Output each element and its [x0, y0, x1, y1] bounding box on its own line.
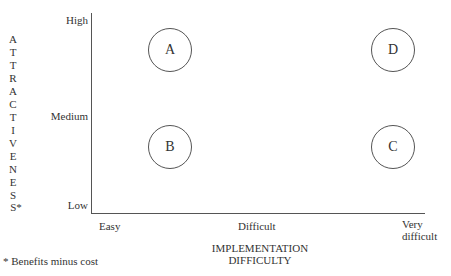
- y-title-letter: N: [6, 164, 20, 175]
- y-title-letter: A: [6, 86, 20, 97]
- y-tick-medium: Medium: [51, 110, 88, 122]
- y-tick-low: Low: [68, 199, 88, 211]
- y-title-letter: E: [6, 177, 20, 188]
- x-tick-difficult: Difficult: [238, 220, 276, 232]
- y-title-letter: T: [6, 60, 20, 71]
- y-title-letter: S*: [9, 202, 23, 213]
- quadrant-a-label: A: [165, 42, 175, 58]
- y-title-letter: R: [6, 73, 20, 84]
- quadrant-b-circle: B: [148, 125, 192, 169]
- x-axis-title-line2: DIFFICULTY: [190, 254, 330, 266]
- x-tick-easy: Easy: [99, 220, 120, 232]
- x-axis-line: [91, 213, 425, 214]
- y-title-letter: T: [6, 47, 20, 58]
- y-title-letter: I: [6, 125, 20, 136]
- x-axis-title-line1: IMPLEMENTATION: [190, 242, 330, 254]
- y-title-letter: E: [6, 151, 20, 162]
- y-axis-line: [91, 13, 92, 214]
- quadrant-c-circle: C: [371, 125, 415, 169]
- x-tick-very-difficult: Very difficult: [402, 218, 437, 242]
- quadrant-c-label: C: [388, 139, 397, 155]
- quadrant-b-label: B: [165, 139, 174, 155]
- x-tick-very-line1: Very: [402, 218, 437, 230]
- quadrant-d-circle: D: [371, 28, 415, 72]
- y-title-letter: T: [6, 112, 20, 123]
- footnote: * Benefits minus cost: [3, 255, 98, 267]
- quadrant-a-circle: A: [148, 28, 192, 72]
- x-tick-very-line2: difficult: [402, 230, 437, 242]
- y-tick-high: High: [66, 14, 88, 26]
- y-title-letter: S: [6, 190, 20, 201]
- quadrant-d-label: D: [388, 42, 398, 58]
- y-title-letter: C: [6, 99, 20, 110]
- y-title-letter: V: [6, 138, 20, 149]
- y-title-letter: A: [6, 34, 20, 45]
- x-axis-title: IMPLEMENTATION DIFFICULTY: [190, 242, 330, 266]
